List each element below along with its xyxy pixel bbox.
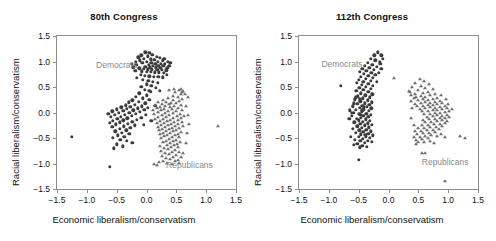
x-tick-label: −1.0	[78, 195, 95, 205]
data-point-democrats	[369, 79, 372, 82]
data-point-democrats	[366, 122, 369, 125]
data-point-democrats	[129, 126, 132, 129]
data-point-republicans	[408, 90, 412, 93]
data-point-republicans	[444, 97, 448, 100]
y-tick-label: −0.5	[275, 133, 292, 143]
data-point-democrats	[374, 59, 377, 62]
data-point-republicans	[458, 134, 462, 137]
data-point-republicans	[431, 87, 435, 90]
data-point-democrats	[355, 81, 358, 84]
data-point-republicans	[412, 123, 416, 126]
data-point-democrats	[349, 135, 352, 138]
x-tick-label: 1.0	[442, 195, 454, 205]
data-point-democrats	[367, 82, 370, 85]
data-point-democrats	[364, 117, 367, 120]
x-tick	[329, 189, 330, 193]
data-point-democrats	[356, 125, 359, 128]
data-point-democrats	[377, 71, 380, 74]
data-point-democrats	[141, 97, 144, 100]
data-point-republicans	[422, 79, 426, 82]
x-tick-label: 1.5	[230, 195, 242, 205]
x-tick	[147, 189, 148, 193]
data-point-republicans	[155, 163, 159, 166]
y-tick	[53, 164, 57, 165]
data-point-republicans	[437, 127, 441, 130]
data-point-democrats	[151, 53, 154, 56]
data-point-democrats	[115, 142, 118, 145]
data-point-democrats	[358, 70, 361, 73]
data-point-democrats	[372, 68, 375, 71]
data-point-republicans	[184, 141, 188, 144]
data-point-republicans	[392, 76, 396, 79]
data-point-democrats	[144, 51, 147, 54]
data-point-democrats	[365, 128, 368, 131]
data-point-democrats	[371, 63, 374, 66]
data-point-democrats	[353, 120, 356, 123]
data-point-democrats	[364, 93, 367, 96]
series-annotation-republicans: Republicans	[422, 157, 469, 167]
data-point-republicans	[423, 86, 427, 89]
x-tick-label: 1.5	[472, 195, 484, 205]
data-point-democrats	[360, 83, 363, 86]
panel-112th-congress: 112th Congress −1.5−1.0−0.50.00.51.01.5−…	[248, 0, 496, 241]
data-point-democrats	[371, 92, 374, 95]
data-point-republicans	[426, 90, 430, 93]
data-point-democrats	[144, 102, 147, 105]
data-point-republicans	[166, 96, 170, 99]
panel-80th-congress: 80th Congress −1.5−1.0−0.50.00.51.01.5−1…	[0, 0, 248, 241]
data-point-democrats	[135, 76, 138, 79]
y-axis-title-right: Racial liberalism/conservatism	[252, 58, 263, 186]
data-point-democrats	[358, 145, 361, 148]
data-point-democrats	[363, 124, 366, 127]
data-point-democrats	[152, 75, 155, 78]
data-point-democrats	[130, 99, 133, 102]
panel-title-right: 112th Congress	[248, 11, 496, 22]
data-point-republicans	[421, 91, 425, 94]
data-point-democrats	[126, 122, 129, 125]
data-point-republicans	[433, 130, 437, 133]
y-tick	[53, 36, 57, 37]
data-point-republicans	[418, 77, 422, 80]
data-point-democrats	[372, 54, 375, 57]
data-point-republicans	[428, 93, 432, 96]
data-point-democrats	[371, 76, 374, 79]
data-point-democrats	[114, 123, 117, 126]
y-tick	[295, 36, 299, 37]
data-point-republicans	[440, 124, 444, 127]
y-tick-label: 1.0	[280, 57, 292, 67]
x-axis-title-right: Economic liberalism/conservatism	[248, 214, 496, 225]
data-point-democrats	[361, 97, 364, 100]
data-point-republicans	[184, 105, 188, 108]
figure-two-panel-scatter: 80th Congress −1.5−1.0−0.50.00.51.01.5−1…	[0, 0, 496, 241]
data-point-democrats	[368, 66, 371, 69]
x-tick	[57, 189, 58, 193]
data-point-democrats	[153, 71, 156, 74]
data-point-republicans	[186, 113, 190, 116]
data-point-democrats	[371, 134, 374, 137]
x-tick	[418, 189, 419, 193]
data-point-democrats	[145, 93, 148, 96]
data-point-republicans	[173, 90, 177, 93]
data-point-democrats	[148, 98, 151, 101]
data-point-democrats	[157, 75, 160, 78]
y-tick-label: 1.5	[280, 31, 292, 41]
y-tick-label: 1.5	[38, 31, 50, 41]
y-tick-label: −1.0	[33, 159, 50, 169]
data-point-democrats	[150, 119, 153, 122]
data-point-democrats	[366, 139, 369, 142]
data-point-democrats	[138, 91, 141, 94]
data-point-republicans	[216, 124, 220, 127]
data-point-republicans	[410, 107, 414, 110]
series-annotation-democrats: Democrats	[96, 60, 137, 70]
x-tick-label: −1.0	[320, 195, 337, 205]
data-point-republicans	[179, 130, 183, 133]
data-point-democrats	[356, 102, 359, 105]
data-point-democrats	[364, 77, 367, 80]
data-point-democrats	[146, 106, 149, 109]
y-tick	[295, 113, 299, 114]
y-tick	[295, 62, 299, 63]
data-point-democrats	[70, 135, 73, 138]
data-point-democrats	[108, 121, 111, 124]
data-point-democrats	[365, 69, 368, 72]
data-point-democrats	[351, 127, 354, 130]
